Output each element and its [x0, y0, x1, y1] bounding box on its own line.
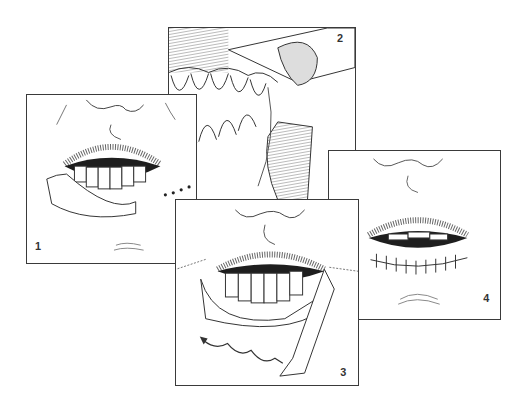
- panel-2-label: 2: [337, 32, 343, 44]
- panel-1: 1: [26, 94, 197, 264]
- panel-1-label: 1: [35, 240, 41, 252]
- panel-3: 3: [175, 199, 359, 386]
- lip-incision-illustration: 1: [27, 95, 196, 263]
- panel-4-label: 4: [483, 292, 489, 304]
- flap-advancement-illustration: 3: [176, 200, 358, 385]
- panel-3-label: 3: [340, 366, 346, 378]
